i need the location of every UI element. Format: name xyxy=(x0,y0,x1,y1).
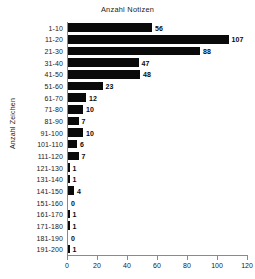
bar-row: 101-1106 xyxy=(67,139,247,151)
bar-row: 91-10010 xyxy=(67,127,247,139)
bar xyxy=(68,70,140,79)
bar-value-label: 1 xyxy=(73,222,77,229)
category-label: 61-70 xyxy=(45,94,63,101)
bar xyxy=(68,128,83,137)
bar-row: 171-1801 xyxy=(67,220,247,232)
category-label: 141-150 xyxy=(37,187,63,194)
bar-row: 121-1301 xyxy=(67,162,247,174)
bar xyxy=(68,93,86,102)
x-axis-tick xyxy=(97,256,98,260)
bar-value-label: 0 xyxy=(71,234,75,241)
x-axis-tick-label: 20 xyxy=(93,262,101,269)
bar xyxy=(68,58,139,67)
x-axis-tick xyxy=(67,256,68,260)
bar-value-label: 0 xyxy=(71,199,75,206)
plot-area: 1-105611-2010721-308831-404741-504851-60… xyxy=(67,22,247,255)
bar xyxy=(68,117,79,126)
bar-value-label: 23 xyxy=(106,83,114,90)
bar xyxy=(68,47,200,56)
bar-row: 31-4047 xyxy=(67,57,247,69)
bar xyxy=(68,175,70,184)
bar xyxy=(68,245,70,254)
category-label: 51-60 xyxy=(45,83,63,90)
bar-value-label: 107 xyxy=(232,36,244,43)
bar-value-label: 7 xyxy=(82,118,86,125)
y-axis-title: Anzahl Zeichen xyxy=(9,79,16,169)
category-label: 1-10 xyxy=(49,24,63,31)
bar xyxy=(68,152,79,161)
bar-row: 141-1504 xyxy=(67,185,247,197)
bar-value-label: 12 xyxy=(89,94,97,101)
x-axis-tick xyxy=(247,256,248,260)
x-axis-tick-label: 0 xyxy=(65,262,69,269)
category-label: 11-20 xyxy=(45,36,63,43)
bar-value-label: 47 xyxy=(142,59,150,66)
bar-row: 11-20107 xyxy=(67,34,247,46)
bar-value-label: 7 xyxy=(82,152,86,159)
category-label: 101-110 xyxy=(37,141,63,148)
bar-value-label: 4 xyxy=(77,187,81,194)
x-axis-tick-label: 60 xyxy=(153,262,161,269)
category-label: 161-170 xyxy=(37,211,63,218)
bar xyxy=(68,105,83,114)
x-axis-tick xyxy=(157,256,158,260)
bar-value-label: 1 xyxy=(73,176,77,183)
bar-value-label: 56 xyxy=(155,24,163,31)
bar-row: 21-3088 xyxy=(67,45,247,57)
category-label: 71-80 xyxy=(45,106,63,113)
bar xyxy=(68,23,152,32)
bar xyxy=(68,163,70,172)
x-axis-tick xyxy=(187,256,188,260)
bar xyxy=(68,140,77,149)
bar-row: 111-1207 xyxy=(67,150,247,162)
x-axis-tick-label: 120 xyxy=(241,262,253,269)
bar-value-label: 1 xyxy=(73,211,77,218)
bar xyxy=(68,221,70,230)
category-label: 121-130 xyxy=(37,164,63,171)
category-label: 151-160 xyxy=(37,199,63,206)
bar-value-label: 1 xyxy=(73,164,77,171)
bar xyxy=(68,82,103,91)
bar-row: 61-7012 xyxy=(67,92,247,104)
category-label: 171-180 xyxy=(37,222,63,229)
category-label: 21-30 xyxy=(45,48,63,55)
x-axis-tick xyxy=(217,256,218,260)
bar-value-label: 6 xyxy=(80,141,84,148)
category-label: 31-40 xyxy=(45,59,63,66)
category-label: 41-50 xyxy=(45,71,63,78)
category-label: 191-200 xyxy=(37,246,63,253)
bar-value-label: 1 xyxy=(73,246,77,253)
bar-row: 131-1401 xyxy=(67,173,247,185)
x-axis-tick-label: 100 xyxy=(211,262,223,269)
bar-row: 161-1701 xyxy=(67,208,247,220)
bar-row: 151-1600 xyxy=(67,197,247,209)
bar xyxy=(68,210,70,219)
category-label: 111-120 xyxy=(38,152,63,159)
bar-value-label: 10 xyxy=(86,106,94,113)
bar xyxy=(68,186,74,195)
bar-value-label: 88 xyxy=(203,48,211,55)
bar-value-label: 10 xyxy=(86,129,94,136)
bar-chart: Anzahl Notizen Anzahl Zeichen 1-105611-2… xyxy=(0,0,255,279)
bar-value-label: 48 xyxy=(143,71,151,78)
bar-row: 81-907 xyxy=(67,115,247,127)
bar-row: 181-1900 xyxy=(67,232,247,244)
x-axis-tick-label: 80 xyxy=(183,262,191,269)
x-axis-tick xyxy=(127,256,128,260)
x-axis-tick-label: 40 xyxy=(123,262,131,269)
chart-title: Anzahl Notizen xyxy=(0,5,255,14)
category-label: 131-140 xyxy=(37,176,63,183)
category-label: 81-90 xyxy=(45,118,63,125)
bar-row: 1-1056 xyxy=(67,22,247,34)
bar xyxy=(68,35,229,44)
category-label: 181-190 xyxy=(37,234,63,241)
bar-row: 191-2001 xyxy=(67,243,247,255)
bar-row: 51-6023 xyxy=(67,80,247,92)
bar-row: 41-5048 xyxy=(67,69,247,81)
bar-row: 71-8010 xyxy=(67,104,247,116)
category-label: 91-100 xyxy=(41,129,63,136)
